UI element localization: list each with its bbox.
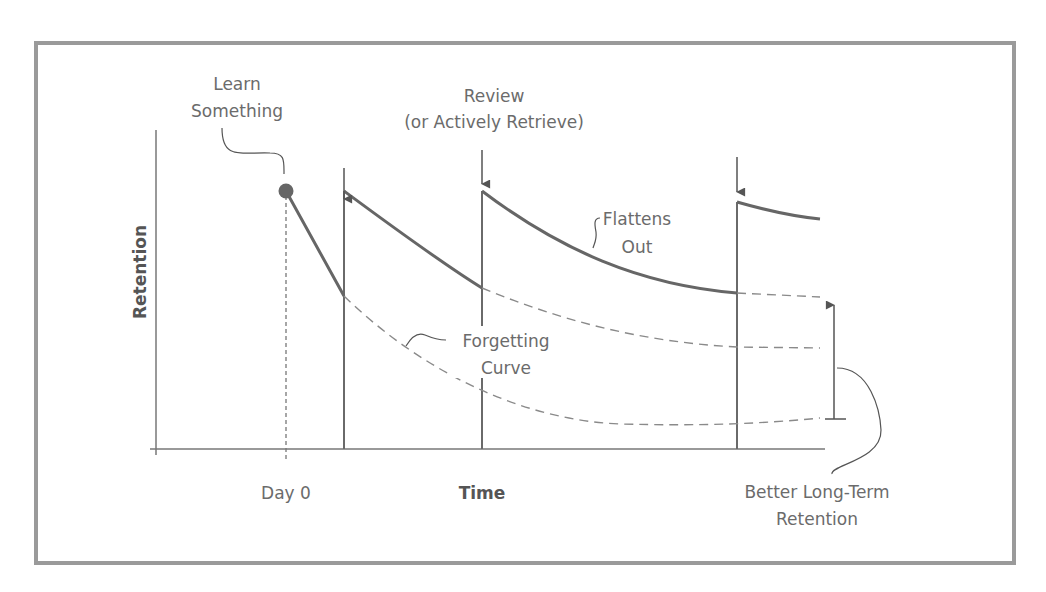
review-label-line1: Review <box>464 86 525 106</box>
learn-label-line2: Something <box>191 101 283 121</box>
flattens-label-line1: Flattens <box>603 209 671 229</box>
better-retention-label-line1: Better Long-Term <box>744 482 889 502</box>
learn-point <box>279 184 294 199</box>
forgetting-label-line2: Curve <box>481 358 531 378</box>
forgetting-label-line1: Forgetting <box>462 331 549 351</box>
learn-label-line1: Learn <box>213 74 261 94</box>
y-axis-label: Retention <box>130 225 150 319</box>
x-tick-day0: Day 0 <box>261 483 311 503</box>
better-retention-label-line2: Retention <box>776 509 858 529</box>
review-label-line2: (or Actively Retrieve) <box>404 112 584 132</box>
spaced-repetition-diagram: Learn Something Review (or Actively Retr… <box>0 0 1046 592</box>
flattens-label-line2: Out <box>622 237 653 257</box>
x-axis-label: Time <box>459 483 506 503</box>
